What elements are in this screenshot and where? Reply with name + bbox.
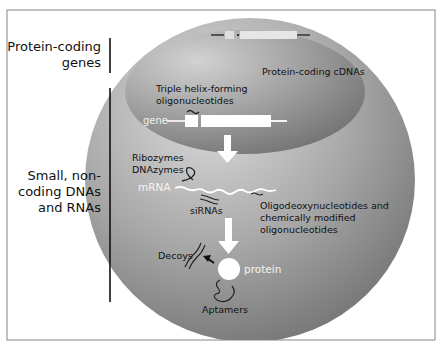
odn-label-line3: oligonucleotides <box>260 224 338 235</box>
side-label-line: Protein-coding <box>7 39 101 54</box>
gene-construct <box>167 115 287 127</box>
odn-label-line2: chemically modified <box>260 212 356 223</box>
decoys-label: Decoys <box>158 250 193 261</box>
diagram-svg: Protein-coding genes Small, non- coding … <box>0 0 441 347</box>
triple-helix-label-line2: oligonucleotides <box>156 95 234 106</box>
aptamers-label: Aptamers <box>202 304 248 315</box>
protein-circle <box>218 258 240 280</box>
protein-label: protein <box>244 263 281 275</box>
diagram-canvas: Protein-coding genes Small, non- coding … <box>0 0 441 347</box>
ribozymes-label: Ribozymes <box>132 152 184 163</box>
triple-helix-label-line1: Triple helix-forming <box>155 83 248 94</box>
side-label-line: genes <box>62 55 101 70</box>
cdna-label: Protein-coding cDNAs <box>262 66 365 77</box>
gene-label: gene <box>143 115 168 126</box>
side-label-line: coding DNAs <box>18 184 101 199</box>
side-label-line: and RNAs <box>38 200 101 215</box>
cdna-construct <box>211 31 310 39</box>
mrna-label: mRNA <box>138 181 171 193</box>
side-label-line: Small, non- <box>28 168 102 183</box>
odn-label-line1: Oligodeoxynucleotides and <box>260 200 389 211</box>
sirnas-label: siRNAs <box>190 205 223 216</box>
dnazymes-label: DNAzymes <box>132 164 184 175</box>
